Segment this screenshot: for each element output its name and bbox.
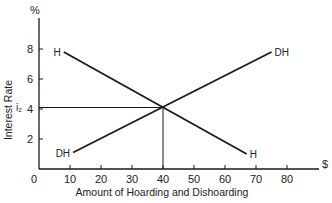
- x-tick-label: 10: [64, 173, 76, 185]
- curve-label-h-end: H: [250, 149, 257, 160]
- x-tick-label: 50: [188, 173, 200, 185]
- x-tick-label: 20: [95, 173, 107, 185]
- y-tick-label: 6: [27, 73, 33, 85]
- y-tick-label: 8: [27, 43, 33, 55]
- x-tick-label: 40: [157, 173, 169, 185]
- curve-label-dh-start: DH: [56, 148, 70, 159]
- x-tick-label: 80: [281, 173, 293, 185]
- y-tick-label: 4: [27, 103, 33, 115]
- y-tick-label: 2: [27, 133, 33, 145]
- y-axis-title: Interest Rate: [2, 80, 14, 140]
- curves: HHDHDH: [54, 47, 289, 160]
- curve-label-h-start: H: [54, 47, 61, 58]
- curve-h: [64, 52, 247, 154]
- x-axis-title: Amount of Hoarding and Dishoarding: [76, 186, 249, 198]
- x-tick-label: 0: [31, 173, 37, 185]
- curve-label-dh-end: DH: [275, 47, 289, 58]
- equilibrium-rate-label: i₂: [16, 102, 22, 113]
- curve-dh: [73, 52, 271, 153]
- x-tick-label: 60: [219, 173, 231, 185]
- x-tick-label: 30: [126, 173, 138, 185]
- hoarding-dishoarding-chart: 010203040506070802468 i₂ HHDHDH % $ Inte…: [0, 0, 332, 203]
- y-unit-label: %: [30, 4, 40, 16]
- x-tick-label: 70: [250, 173, 262, 185]
- x-unit-label: $: [322, 158, 328, 170]
- equilibrium-guides: i₂: [16, 102, 163, 170]
